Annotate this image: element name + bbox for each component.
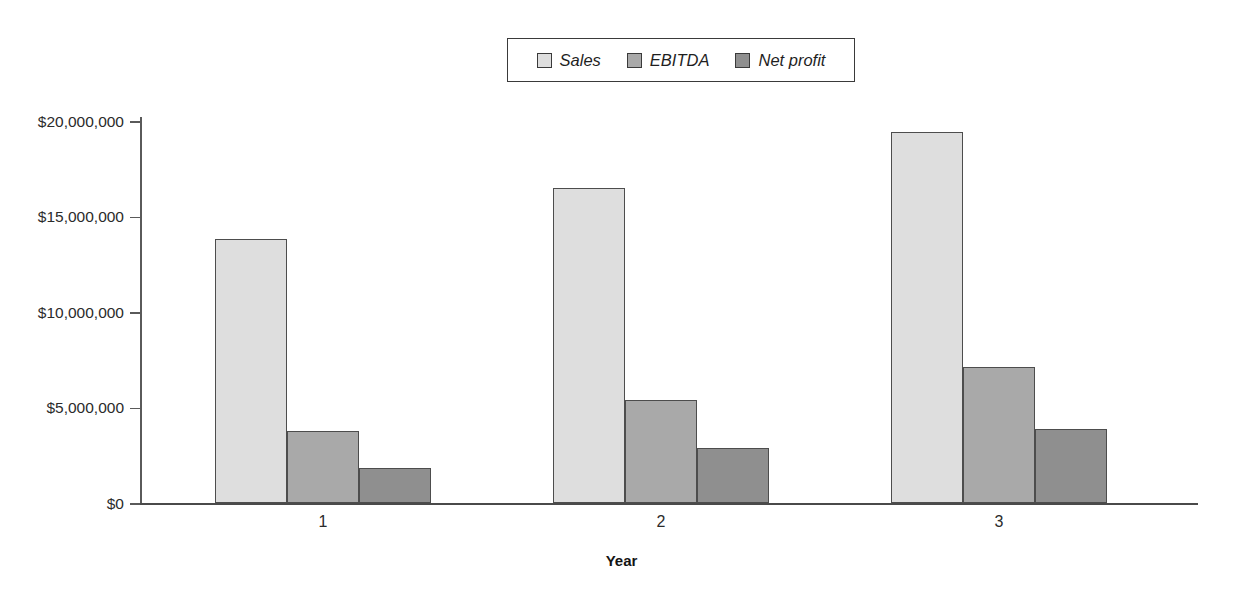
bar-sales-year-2 <box>553 188 625 503</box>
x-axis-label-2: 2 <box>657 513 666 531</box>
x-axis-label-3: 3 <box>995 513 1004 531</box>
x-axis-title: Year <box>0 552 1243 569</box>
y-axis-line <box>140 117 142 503</box>
legend-swatch-ebitda <box>627 53 642 68</box>
bar-net-profit-year-3 <box>1035 429 1107 503</box>
x-axis-label-1: 1 <box>319 513 328 531</box>
bar-sales-year-1 <box>215 239 287 503</box>
bar-chart-figure: Sales EBITDA Net profit $0$5,000,000$10,… <box>0 0 1243 610</box>
y-axis-tick-label: $20,000,000 <box>38 113 124 131</box>
legend-label-ebitda: EBITDA <box>650 52 710 69</box>
legend-label-net-profit: Net profit <box>758 52 825 69</box>
plot-area: $0$5,000,000$10,000,000$15,000,000$20,00… <box>140 121 1200 503</box>
y-axis-tick-label: $15,000,000 <box>38 208 124 226</box>
chart-legend: Sales EBITDA Net profit <box>507 38 855 82</box>
bar-ebitda-year-1 <box>287 431 359 503</box>
y-axis-tick-mark: $20,000,000 <box>130 121 140 123</box>
legend-entry-net-profit: Net profit <box>735 52 825 69</box>
legend-label-sales: Sales <box>560 52 601 69</box>
y-axis-tick-label: $5,000,000 <box>46 399 124 417</box>
x-axis-line <box>130 503 1198 505</box>
y-axis-tick-label: $10,000,000 <box>38 304 124 322</box>
y-axis-tick-mark: $5,000,000 <box>130 408 140 410</box>
y-axis-tick-mark: $15,000,000 <box>130 217 140 219</box>
legend-swatch-net-profit <box>735 53 750 68</box>
y-axis-tick-label: $0 <box>107 495 124 513</box>
y-axis-tick-mark: $10,000,000 <box>130 312 140 314</box>
bar-sales-year-3 <box>891 132 963 503</box>
legend-entry-ebitda: EBITDA <box>627 52 710 69</box>
bar-ebitda-year-2 <box>625 400 697 503</box>
legend-entry-sales: Sales <box>537 52 601 69</box>
bar-net-profit-year-1 <box>359 468 431 503</box>
y-axis-tick-mark: $0 <box>130 503 140 505</box>
bar-ebitda-year-3 <box>963 367 1035 503</box>
legend-swatch-sales <box>537 53 552 68</box>
bar-net-profit-year-2 <box>697 448 769 503</box>
